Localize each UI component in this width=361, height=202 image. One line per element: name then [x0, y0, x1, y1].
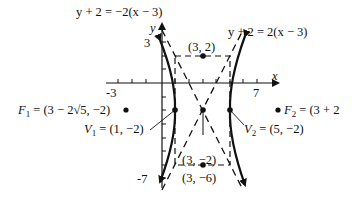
- x-axis-label: x: [272, 69, 278, 83]
- asymptote-negative-label: y + 2 = −2(x − 3): [76, 5, 163, 19]
- bottom-rect-point-label: (3, −6): [182, 171, 216, 185]
- v2-label: V2 = (5, −2): [244, 122, 304, 140]
- v1-label: V1 = (1, −2): [84, 122, 144, 140]
- top-rect-point-label: (3, 2): [188, 40, 215, 54]
- x-tick-neg3: -3: [106, 86, 116, 100]
- f1-label: F1 = (3 − 2√5, −2): [18, 103, 110, 121]
- point-top-rect: [200, 53, 206, 59]
- asymptote-positive-label: y + 2 = 2(x − 3): [228, 25, 307, 39]
- x-tick-7: 7: [253, 86, 259, 100]
- y-tick-3: 3: [144, 36, 150, 50]
- y-tick-neg7: -7: [137, 172, 147, 186]
- x-axis: [106, 79, 278, 83]
- point-center: [200, 107, 206, 113]
- center-point-label: (3, −2): [182, 153, 216, 167]
- point-f1: [123, 107, 128, 112]
- point-f2: [275, 107, 280, 112]
- f2-label: F2 = (3 + 2: [284, 103, 339, 121]
- y-axis-label: y: [150, 21, 156, 35]
